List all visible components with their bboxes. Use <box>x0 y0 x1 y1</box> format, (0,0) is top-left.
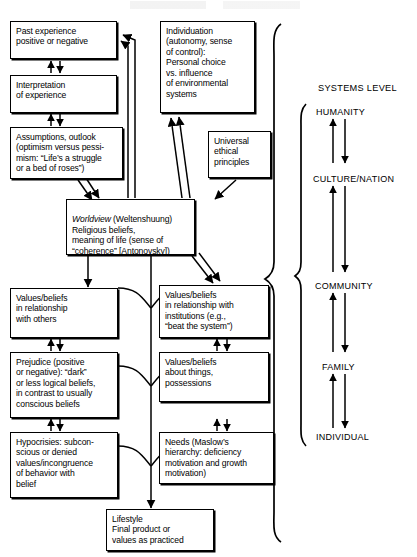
worldview-term: Worldview <box>72 214 111 224</box>
box-universal-ethical-principles: Universal ethical principles <box>208 131 271 178</box>
arrow-pair-valuesothers-prejudice <box>51 339 60 351</box>
box-values-relationship-institutions: Values/beliefs in relationship with inst… <box>159 285 269 338</box>
hook-hypocrisies <box>118 446 151 466</box>
arrow-pair-humanity-culture <box>333 119 345 163</box>
arrow-pair-culture-community <box>333 186 345 272</box>
systems-level-individual: INDIVIDUAL <box>316 432 369 442</box>
arrow-universal-ethics-to-worldview <box>215 180 236 199</box>
box-individuation: Individuation (autonomy, sense of contro… <box>160 21 255 113</box>
hook-prejudice <box>118 366 151 386</box>
arrow-assumptions-to-worldview <box>78 178 99 200</box>
arrow-pair-institutions-things <box>217 339 227 351</box>
box-worldview: Worldview (Weltenshuung) Religious belie… <box>66 199 195 255</box>
arrow-pair-past-interpretation <box>51 61 60 73</box>
box-assumptions: Assumptions, outlook (optimism versus pe… <box>10 127 123 179</box>
systems-level-brace <box>295 104 306 446</box>
systems-level-heading: SYSTEMS LEVEL <box>318 83 397 93</box>
arrow-pair-community-family <box>333 293 345 352</box>
box-needs-maslow: Needs (Maslow’s hierarchy: deficiency mo… <box>159 432 274 484</box>
systems-level-family: FAMILY <box>322 362 355 372</box>
box-past-experience: Past experience positive or negative <box>10 21 117 59</box>
arrow-pair-interpretation-assumptions <box>51 114 60 126</box>
cropped-caption-artifact <box>130 1 300 9</box>
box-values-relationship-others: Values/beliefs in relationship with othe… <box>10 288 118 338</box>
arrow-pair-things-needs <box>217 419 227 431</box>
systems-level-community: COMMUNITY <box>315 281 373 291</box>
box-lifestyle: Lifestyle Final product or values as pra… <box>106 509 214 551</box>
systems-level-culture-nation: CULTURE/NATION <box>313 174 394 184</box>
arrow-worldview-to-values-institutions <box>192 253 220 283</box>
systems-level-humanity: HUMANITY <box>316 107 365 117</box>
arrow-pair-prejudice-hypocrisies <box>51 419 60 431</box>
hook-values-others <box>118 288 151 308</box>
arrow-pair-individuation-worldview <box>171 117 190 198</box>
box-hypocrisies: Hypocrisies: subcon- scious or denied va… <box>10 432 118 498</box>
diagram-canvas: Past experience positive or negative Int… <box>0 0 417 557</box>
arrow-worldview-to-past-experience <box>121 35 135 198</box>
box-values-things-possessions: Values/beliefs about things, possessions <box>159 352 269 402</box>
box-interpretation: Interpretation of experience <box>10 75 117 113</box>
box-prejudice: Prejudice (positive or negative): “dark”… <box>10 352 118 418</box>
arrow-pair-family-individual <box>333 374 345 428</box>
